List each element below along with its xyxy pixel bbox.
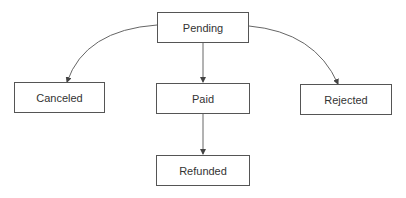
node-rejected: Rejected	[300, 84, 392, 115]
node-pending: Pending	[157, 12, 249, 43]
node-paid: Paid	[156, 83, 250, 114]
edge-pending-rejected	[249, 26, 338, 84]
edge-pending-canceled	[67, 25, 157, 82]
node-refunded: Refunded	[156, 155, 250, 186]
node-canceled: Canceled	[14, 82, 105, 113]
